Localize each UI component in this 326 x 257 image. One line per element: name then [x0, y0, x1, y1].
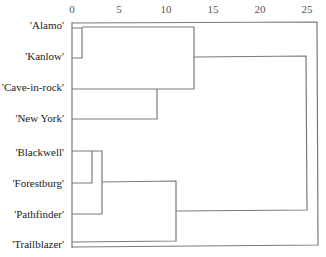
merge-cave-newyork	[72, 89, 157, 119]
merge-alamo-kanlow	[72, 28, 82, 58]
merge-final	[176, 56, 307, 211]
dendrogram-lines	[0, 0, 326, 257]
merge-trailblazer	[72, 181, 176, 242]
dendrogram: 0 5 10 15 20 25 'Alamo' 'Kanlow' 'Cave-i…	[0, 0, 326, 257]
merge-blackwell-forestburg	[72, 151, 92, 183]
merge-alamo-cave	[72, 27, 194, 89]
